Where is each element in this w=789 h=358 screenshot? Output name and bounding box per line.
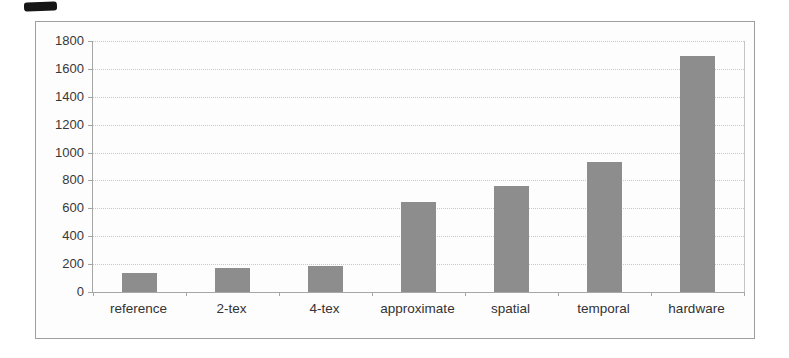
gridline-800 (93, 180, 744, 181)
bar-temporal (587, 162, 622, 292)
gridline-1400 (93, 97, 744, 98)
y-tick-mark-600 (88, 208, 92, 209)
y-axis-tick-label-0: 0 (42, 284, 84, 300)
y-tick-mark-800 (88, 180, 92, 181)
chart-figure: 020040060080010001200140016001800 refere… (35, 21, 755, 339)
y-axis-tick-label-400: 400 (42, 228, 84, 244)
bar-2-tex (215, 268, 250, 292)
bar-hardware (680, 56, 715, 292)
y-axis-tick-label-200: 200 (42, 256, 84, 272)
bar-reference (122, 273, 157, 292)
y-tick-mark-1400 (88, 97, 92, 98)
y-axis-tick-label-1200: 1200 (42, 117, 84, 133)
y-axis-tick-label-600: 600 (42, 200, 84, 216)
y-tick-mark-1800 (88, 41, 92, 42)
y-axis-tick-label-1000: 1000 (42, 145, 84, 161)
x-axis-category-label-approximate: approximate (371, 301, 464, 317)
gridline-1200 (93, 125, 744, 126)
scan-artifact-mark (24, 1, 57, 11)
y-tick-mark-1200 (88, 125, 92, 126)
x-tick-mark-0 (93, 292, 94, 296)
x-tick-mark-6 (651, 292, 652, 296)
x-tick-mark-5 (558, 292, 559, 296)
x-axis-category-label-2-tex: 2-tex (185, 301, 278, 317)
plot-area (92, 41, 745, 293)
y-tick-mark-1000 (88, 153, 92, 154)
y-tick-mark-200 (88, 264, 92, 265)
x-tick-mark-2 (279, 292, 280, 296)
x-axis-category-label-reference: reference (92, 301, 185, 317)
scanned-chart-page: 020040060080010001200140016001800 refere… (0, 0, 789, 358)
bar-approximate (401, 202, 436, 292)
y-axis-tick-label-1400: 1400 (42, 89, 84, 105)
x-tick-mark-1 (186, 292, 187, 296)
x-tick-mark-7 (744, 292, 745, 296)
y-tick-mark-0 (88, 292, 92, 293)
gridline-1000 (93, 153, 744, 154)
gridline-1600 (93, 69, 744, 70)
y-axis-tick-label-800: 800 (42, 172, 84, 188)
x-axis-category-label-4-tex: 4-tex (278, 301, 371, 317)
x-tick-mark-4 (465, 292, 466, 296)
x-axis-category-label-temporal: temporal (557, 301, 650, 317)
y-tick-mark-400 (88, 236, 92, 237)
x-axis-category-label-spatial: spatial (464, 301, 557, 317)
bar-4-tex (308, 266, 343, 292)
bar-spatial (494, 186, 529, 292)
y-axis-tick-label-1800: 1800 (42, 33, 84, 49)
gridline-1800 (93, 41, 744, 42)
x-axis-category-label-hardware: hardware (650, 301, 743, 317)
y-axis-tick-label-1600: 1600 (42, 61, 84, 77)
x-tick-mark-3 (372, 292, 373, 296)
y-tick-mark-1600 (88, 69, 92, 70)
